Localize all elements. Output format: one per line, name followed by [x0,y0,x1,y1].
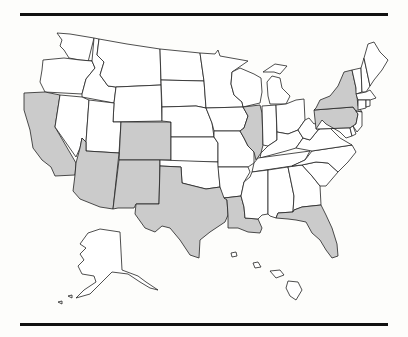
state-alaska-islands: Alaska [58,295,72,304]
bottom-rule [20,323,388,326]
state-hawaii-oahu[interactable]: Hawaii [253,262,261,268]
us-states-map: Washington Oregon California Idaho Nevad… [0,0,408,337]
state-south-dakota[interactable]: South Dakota [161,80,206,108]
state-kansas[interactable]: Kansas [171,137,218,162]
state-montana[interactable]: Montana [97,39,161,87]
state-hawaii-kauai[interactable]: Hawaii [231,252,237,257]
state-michigan[interactable]: Michigan [263,64,290,104]
state-indiana[interactable]: Indiana [262,105,277,146]
state-hawaii-big-island[interactable]: Hawaii [286,281,302,300]
state-rhode-island[interactable]: Rhode Island [366,100,370,107]
state-new-mexico[interactable]: New Mexico [113,160,160,209]
state-washington[interactable]: Washington [57,33,94,62]
state-hawaii-maui[interactable]: Hawaii [270,270,284,278]
state-connecticut[interactable]: Connecticut [358,100,366,110]
state-florida[interactable]: Florida [276,205,338,258]
state-north-dakota[interactable]: North Dakota [160,49,204,81]
state-colorado[interactable]: Colorado [119,122,171,160]
state-wyoming[interactable]: Wyoming [113,85,162,122]
state-alaska[interactable]: Alaska [76,229,158,298]
